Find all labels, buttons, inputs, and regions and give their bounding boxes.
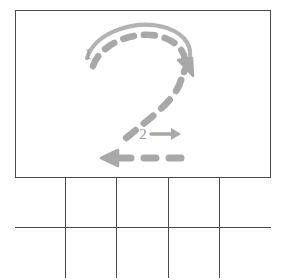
practice-cell[interactable] bbox=[15, 178, 66, 228]
practice-cell[interactable] bbox=[15, 228, 66, 278]
practice-cell[interactable] bbox=[117, 228, 168, 278]
stroke-2-arrowhead-icon bbox=[101, 150, 118, 166]
stroke-order-label-1: 1 bbox=[84, 46, 92, 62]
practice-cell[interactable] bbox=[169, 178, 220, 228]
practice-cell[interactable] bbox=[220, 228, 271, 278]
stroke-1-dashed-path bbox=[93, 35, 185, 72]
practice-cell[interactable] bbox=[220, 178, 271, 228]
stroke-order-label-2: 2 bbox=[139, 126, 147, 142]
demo-character-cell: 1 2 bbox=[15, 10, 271, 178]
practice-cell[interactable] bbox=[66, 178, 117, 228]
handwriting-worksheet: 1 2 bbox=[0, 0, 282, 280]
stroke-2-direction-arrow-icon bbox=[151, 128, 181, 140]
practice-grid bbox=[15, 178, 271, 278]
stroke-order-diagram: 1 2 bbox=[15, 10, 271, 177]
practice-cell[interactable] bbox=[117, 178, 168, 228]
practice-cell[interactable] bbox=[66, 228, 117, 278]
practice-cell[interactable] bbox=[169, 228, 220, 278]
